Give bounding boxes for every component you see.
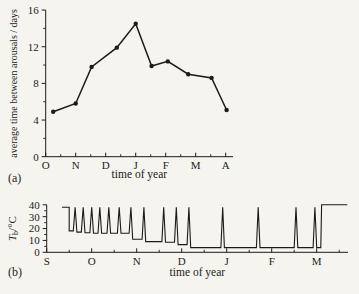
y-tick-label: 12 — [28, 41, 39, 53]
data-point — [186, 72, 190, 76]
y-tick-label: 8 — [33, 77, 39, 89]
y-tick-label: 10 — [29, 234, 41, 246]
y-axis-title: average time between arousals / days — [8, 9, 19, 158]
x-tick-label: J — [225, 255, 230, 267]
data-point — [134, 22, 138, 26]
x-tick-label: O — [88, 255, 96, 267]
y-tick-label: 16 — [28, 4, 40, 16]
y-tick-label: 20 — [29, 222, 41, 234]
panel-a-label: (a) — [8, 172, 21, 184]
panel-b-label: (b) — [8, 266, 22, 278]
chart-a: 0481216ONDJFMAtime of yearaverage time b… — [8, 4, 233, 181]
x-tick-label: A — [222, 159, 230, 171]
data-point — [166, 59, 170, 63]
chart-b: 010203040SONDJFMtime of yearTb/°C — [6, 199, 348, 279]
x-axis-title: time of year — [112, 168, 168, 181]
data-point — [51, 110, 55, 114]
data-point — [74, 101, 78, 105]
data-point — [115, 45, 119, 49]
y-tick-label: 4 — [33, 114, 39, 126]
y-axis-title: Tb/°C — [6, 216, 21, 241]
x-tick-label: F — [269, 255, 275, 267]
x-tick-label: S — [44, 255, 50, 267]
x-tick-label: M — [312, 255, 322, 267]
x-axis-title: time of year — [170, 266, 226, 279]
hibernation-figure: 0481216ONDJFMAtime of yearaverage time b… — [0, 0, 359, 294]
y-tick-label: 0 — [34, 246, 40, 258]
x-tick-label: M — [191, 159, 201, 171]
y-tick-label: 0 — [33, 151, 39, 163]
data-point — [149, 64, 153, 68]
arousal-interval-line — [53, 24, 226, 112]
x-tick-label: O — [42, 159, 50, 171]
x-tick-label: N — [133, 255, 141, 267]
x-tick-label: D — [102, 159, 110, 171]
x-tick-label: N — [72, 159, 80, 171]
y-tick-label: 30 — [29, 211, 41, 223]
body-temperature-trace — [62, 205, 347, 248]
data-point — [224, 108, 228, 112]
data-point — [89, 65, 93, 69]
figure-canvas: 0481216ONDJFMAtime of yearaverage time b… — [0, 0, 359, 294]
data-point — [209, 76, 213, 80]
y-tick-label: 40 — [29, 199, 41, 211]
